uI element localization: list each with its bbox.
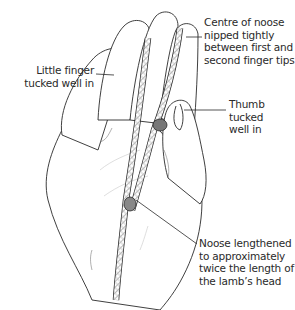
label-line: second finger tips. xyxy=(204,54,295,67)
label-line: Thumb xyxy=(229,98,265,111)
label-line: tucked well in xyxy=(14,77,94,90)
label-line: well in xyxy=(229,123,265,136)
label-line: Noose lengthened xyxy=(199,237,294,250)
label-line: Centre of noose xyxy=(204,16,295,29)
hand-outline xyxy=(46,12,206,310)
label-line: between first and xyxy=(204,41,295,54)
label-line: to approximately xyxy=(199,250,294,263)
label-line: tucked xyxy=(229,111,265,124)
label-line: nipped tightly xyxy=(204,29,295,42)
label-line: Little finger xyxy=(14,64,94,77)
label-centre-of-noose: Centre of noose nipped tightly between f… xyxy=(204,16,295,66)
label-thumb: Thumb tucked well in xyxy=(229,98,265,136)
label-line: twice the length of xyxy=(199,262,294,275)
label-line: the lamb’s head xyxy=(199,275,294,288)
label-noose-length: Noose lengthened to approximately twice … xyxy=(199,237,294,287)
label-little-finger: Little finger tucked well in xyxy=(14,64,94,89)
